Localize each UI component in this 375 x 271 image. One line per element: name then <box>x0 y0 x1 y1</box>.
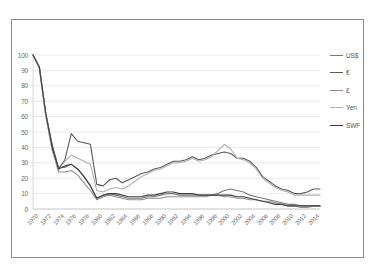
chart-plot-container: 0102030405060708090100 19701972197419761… <box>0 0 375 271</box>
y-tick-label: 30 <box>8 159 28 166</box>
y-tick-label: 0 <box>8 206 28 213</box>
y-tick-label: 10 <box>8 190 28 197</box>
legend-item-3[interactable]: Yen <box>330 101 372 115</box>
legend-label: € <box>346 69 350 76</box>
series-line-1 <box>33 55 320 194</box>
legend-item-4[interactable]: SWF <box>330 118 372 132</box>
legend-swatch-icon <box>330 90 343 91</box>
legend-label: US$ <box>346 52 358 59</box>
y-tick-label: 80 <box>8 82 28 89</box>
y-tick-label: 50 <box>8 129 28 136</box>
legend-item-2[interactable]: £ <box>330 83 372 97</box>
legend-label: £ <box>346 87 350 94</box>
gridlines <box>33 55 320 194</box>
legend-item-1[interactable]: € <box>330 66 372 80</box>
y-tick-label: 100 <box>8 52 28 59</box>
legend-swatch-icon <box>330 55 343 56</box>
y-tick-label: 90 <box>8 67 28 74</box>
y-tick-label: 70 <box>8 98 28 105</box>
series-line-0 <box>33 55 320 206</box>
legend-item-0[interactable]: US$ <box>330 48 372 62</box>
series-line-2 <box>33 55 320 207</box>
y-tick-label: 40 <box>8 144 28 151</box>
y-tick-label: 60 <box>8 113 28 120</box>
legend-swatch-icon <box>330 107 343 108</box>
series-line-4 <box>33 55 320 206</box>
chart-legend: US$€£YenSWF <box>330 48 372 136</box>
y-tick-label: 20 <box>8 175 28 182</box>
series-lines <box>33 55 320 207</box>
legend-label: Yen <box>346 104 357 111</box>
legend-swatch-icon <box>330 72 343 73</box>
legend-label: SWF <box>346 122 360 129</box>
legend-swatch-icon <box>330 125 343 126</box>
